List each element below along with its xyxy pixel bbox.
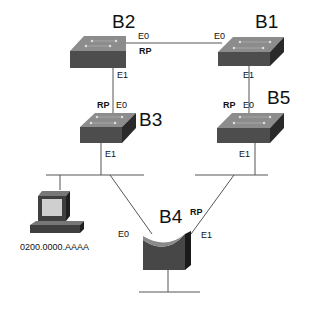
port-label-b4-e1: E1 [201,231,212,240]
switch-icon-b3 [80,113,136,143]
rp-label-b4: RP [190,208,203,217]
switch-icon-b1 [218,37,284,66]
workstation-icon [30,191,84,233]
rp-label-b2: RP [139,47,152,56]
port-label-b1-e0: E0 [214,32,225,41]
link-lan-b4-e0 [110,175,152,234]
port-label-b1-e1: E1 [243,71,254,80]
port-label-b2-e0: E0 [138,32,149,41]
port-label-b3-e0: E0 [116,101,127,110]
port-label-b5-e0: E0 [243,101,254,110]
bridge-label-b2: B2 [112,12,135,31]
link-lan-b4-e1 [191,175,234,234]
bridge-label-b4: B4 [159,207,182,226]
switch-icon-b5 [217,113,284,143]
rp-label-b3: RP [97,101,110,110]
switch-icon-b2 [70,36,126,68]
router-bridge-icon-b4 [143,231,191,270]
rp-label-b5: RP [223,101,236,110]
bridge-label-b3: B3 [139,110,162,129]
bridge-label-b5: B5 [267,88,290,107]
port-label-b4-e0: E0 [118,230,129,239]
port-label-b5-e1: E1 [239,150,250,159]
port-label-b2-e1: E1 [117,71,128,80]
host-mac-label: 0200.0000.AAAA [20,243,89,252]
bridge-label-b1: B1 [255,12,278,31]
port-label-b3-e1: E1 [105,150,116,159]
